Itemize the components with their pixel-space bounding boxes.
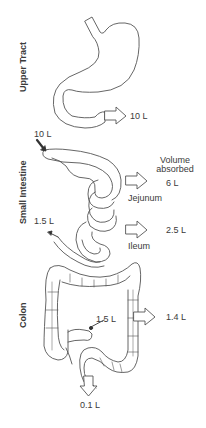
- jejunum-absorbed-volume: 6 L: [166, 178, 179, 188]
- volume-absorbed-heading-line2: absorbed: [153, 164, 197, 174]
- colon-input-volume: 1.5 L: [96, 314, 116, 324]
- small-intestine-input-volume: 10 L: [34, 129, 52, 139]
- gi-fluid-absorption-diagram: Upper Tract Small Intestine Colon 10 L 1…: [0, 0, 206, 428]
- colon-drawing: [44, 263, 141, 388]
- jejunum-absorption-arrow: [126, 172, 147, 189]
- stomach-drawing: [53, 17, 139, 128]
- colon-absorbed-volume: 1.4 L: [166, 312, 186, 322]
- small-intestine-drawing: [43, 149, 121, 267]
- section-label-colon: Colon: [18, 303, 28, 329]
- colon-excreted-volume: 0.1 L: [80, 400, 100, 410]
- section-label-small-intestine: Small Intestine: [18, 160, 28, 224]
- jejunum-label: Jejunum: [128, 193, 162, 203]
- ileum-label: Ileum: [128, 241, 150, 251]
- upper-tract-output-volume: 10 L: [130, 111, 148, 121]
- small-intestine-output-volume: 1.5 L: [34, 216, 54, 226]
- anatomy-illustration: [0, 0, 206, 428]
- colon-absorption-arrow: [134, 308, 155, 325]
- section-label-upper-tract: Upper Tract: [18, 42, 28, 92]
- ileum-absorbed-volume: 2.5 L: [166, 225, 186, 235]
- ileum-absorption-arrow: [126, 221, 147, 238]
- upper-tract-outflow-arrow: [105, 107, 126, 124]
